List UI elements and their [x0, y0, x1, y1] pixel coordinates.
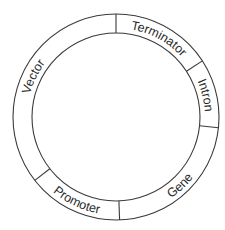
- plasmid-ring: Terminator Intron Gene Promoter Vector: [0, 0, 225, 230]
- segment-label-terminator: Terminator: [130, 18, 190, 59]
- plasmid-diagram: Terminator Intron Gene Promoter Vector: [0, 0, 225, 230]
- segment-label-gene: Gene: [164, 170, 195, 200]
- segment-divider: [200, 126, 219, 128]
- outer-ring: [13, 14, 219, 220]
- segment-divider: [119, 201, 120, 220]
- segment-divider: [35, 169, 50, 181]
- inner-ring: [32, 33, 200, 201]
- segment-divider: [186, 61, 202, 71]
- segment-label-vector: Vector: [19, 56, 47, 95]
